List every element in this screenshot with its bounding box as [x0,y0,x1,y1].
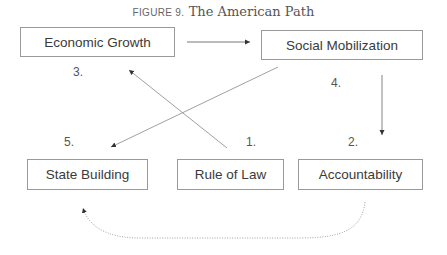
step-number-3: 3. [73,65,83,79]
node-accountability: Accountability [298,159,423,190]
node-rule-of-law: Rule of Law [177,159,284,190]
node-label: Economic Growth [44,35,151,50]
node-state-building: State Building [27,159,148,190]
node-label: State Building [46,167,129,182]
edge-accountability-to-state-building-dotted [83,202,365,238]
step-number-4: 4. [331,76,341,90]
node-label: Rule of Law [195,167,266,182]
node-economic-growth: Economic Growth [20,27,175,57]
edge-rule-of-law-to-economic-growth [129,70,227,148]
node-label: Social Mobilization [286,38,398,53]
step-number-5: 5. [64,135,74,149]
step-number-2: 2. [348,135,358,149]
node-label: Accountability [319,167,402,182]
step-number-1: 1. [246,135,256,149]
node-social-mobilization: Social Mobilization [261,30,423,60]
